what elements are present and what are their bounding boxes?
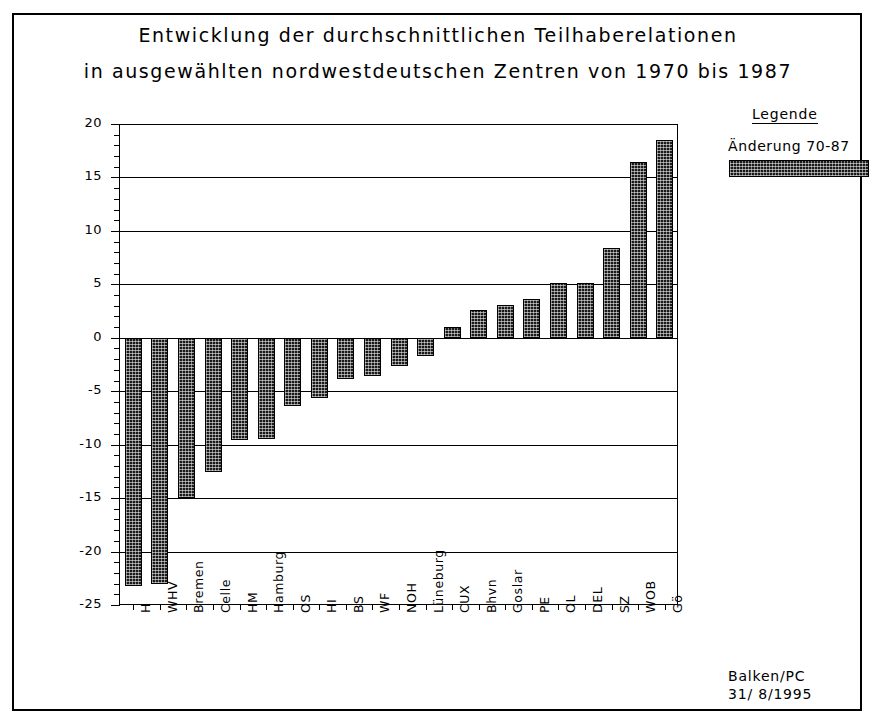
y-tick-major xyxy=(111,605,120,606)
x-tick xyxy=(133,605,134,610)
x-axis-category-label: WHV xyxy=(165,581,180,613)
y-axis-line xyxy=(119,124,120,605)
y-tick-minor xyxy=(114,327,120,328)
bar xyxy=(284,338,301,406)
y-tick-minor xyxy=(114,370,120,371)
y-tick-minor xyxy=(114,135,120,136)
bar xyxy=(550,283,567,338)
x-tick xyxy=(186,605,187,610)
y-tick-minor xyxy=(114,584,120,585)
bar xyxy=(231,338,248,441)
y-tick-minor xyxy=(114,487,120,488)
x-tick xyxy=(399,605,400,610)
y-axis-label: 5 xyxy=(58,275,102,290)
x-axis-category-label: SZ xyxy=(617,595,632,613)
x-tick xyxy=(213,605,214,610)
x-axis-category-label: CUX xyxy=(457,585,472,613)
y-tick-minor xyxy=(114,402,120,403)
y-tick-minor xyxy=(114,167,120,168)
y-tick-minor xyxy=(114,413,120,414)
y-tick-minor xyxy=(114,242,120,243)
y-tick-minor xyxy=(114,541,120,542)
y-tick-major xyxy=(111,124,120,125)
y-tick-minor xyxy=(114,316,120,317)
x-tick xyxy=(585,605,586,610)
bar xyxy=(391,338,408,366)
y-axis-label: 10 xyxy=(58,222,102,237)
x-tick xyxy=(638,605,639,610)
y-axis-label: 20 xyxy=(58,115,102,130)
bar xyxy=(337,338,354,380)
bar xyxy=(258,338,275,440)
x-axis-category-label: Hamburg xyxy=(271,551,286,613)
plot-border-right xyxy=(677,124,678,605)
x-tick xyxy=(160,605,161,610)
x-axis-category-label: PE xyxy=(537,596,552,613)
x-axis-category-label: Gö xyxy=(670,594,685,613)
y-tick-minor xyxy=(114,381,120,382)
x-axis-category-label: Celle xyxy=(218,579,233,613)
x-axis-category-label: Bhvn xyxy=(484,579,499,613)
y-axis-label: -5 xyxy=(58,382,102,397)
x-axis-category-label: DEL xyxy=(590,587,605,613)
y-tick-major xyxy=(111,284,120,285)
x-tick xyxy=(612,605,613,610)
x-axis-category-label: Goslar xyxy=(510,569,525,613)
bar xyxy=(417,338,434,356)
y-tick-minor xyxy=(114,263,120,264)
x-axis-category-label: HM xyxy=(245,592,260,613)
gridline xyxy=(120,177,678,178)
x-axis-category-label: OS xyxy=(298,594,313,613)
y-tick-minor xyxy=(114,359,120,360)
x-axis-category-label: WOB xyxy=(643,580,658,613)
bar xyxy=(178,338,195,498)
y-tick-minor xyxy=(114,156,120,157)
y-tick-minor xyxy=(114,530,120,531)
y-axis-label: 15 xyxy=(58,168,102,183)
x-axis-category-label: Bremen xyxy=(191,560,206,613)
plot-border-top xyxy=(120,124,678,125)
bar xyxy=(577,283,594,338)
bar xyxy=(311,338,328,398)
x-axis-category-label: H xyxy=(138,603,153,613)
x-axis-category-label: OL xyxy=(563,595,578,613)
footer-date: 31/ 8/1995 xyxy=(728,686,812,702)
y-tick-major xyxy=(111,231,120,232)
x-tick xyxy=(479,605,480,610)
y-tick-minor xyxy=(114,252,120,253)
legend-entry-swatch xyxy=(729,160,869,177)
y-tick-minor xyxy=(114,274,120,275)
y-tick-minor xyxy=(114,562,120,563)
y-tick-minor xyxy=(114,594,120,595)
x-axis-category-label: BS xyxy=(351,596,366,614)
y-tick-minor xyxy=(114,477,120,478)
x-tick xyxy=(505,605,506,610)
y-axis-label: -10 xyxy=(58,436,102,451)
y-axis-label: -25 xyxy=(58,596,102,611)
y-tick-major xyxy=(111,177,120,178)
x-tick xyxy=(372,605,373,610)
x-axis-category-label: HI xyxy=(324,599,339,613)
y-tick-minor xyxy=(114,199,120,200)
y-axis-label: 0 xyxy=(58,329,102,344)
y-tick-major xyxy=(111,498,120,499)
y-tick-minor xyxy=(114,434,120,435)
x-tick xyxy=(532,605,533,610)
y-axis-label: -15 xyxy=(58,489,102,504)
y-tick-major xyxy=(111,338,120,339)
y-tick-minor xyxy=(114,306,120,307)
y-tick-minor xyxy=(114,573,120,574)
y-tick-minor xyxy=(114,423,120,424)
footer-source: Balken/PC xyxy=(728,668,805,684)
bar xyxy=(523,299,540,337)
y-tick-minor xyxy=(114,455,120,456)
bar xyxy=(470,310,487,338)
x-tick xyxy=(426,605,427,610)
bar xyxy=(630,162,647,337)
bar xyxy=(497,305,514,338)
bar xyxy=(656,140,673,338)
y-tick-minor xyxy=(114,509,120,510)
x-axis-category-label: Lüneburg xyxy=(431,549,446,613)
x-tick xyxy=(452,605,453,610)
y-tick-major xyxy=(111,445,120,446)
